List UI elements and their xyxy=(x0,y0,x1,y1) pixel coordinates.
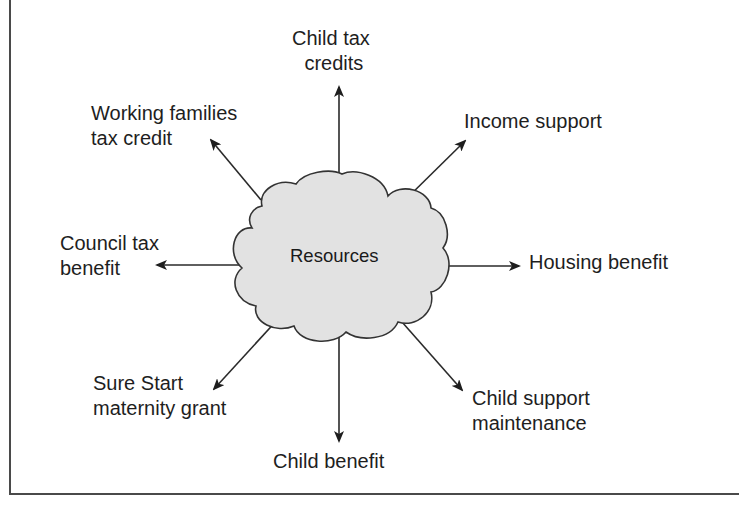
node-label-line: Child benefit xyxy=(273,449,384,474)
node-label-line: Child tax xyxy=(292,26,370,51)
node-child-support-maintenance: Child support maintenance xyxy=(472,386,590,436)
node-working-families-tax-credit: Working families tax credit xyxy=(91,101,237,151)
node-label-line: maintenance xyxy=(472,411,590,436)
node-income-support: Income support xyxy=(464,109,602,134)
node-label-line: credits xyxy=(292,51,370,76)
arrow-child-support-maintenance xyxy=(402,322,462,390)
node-label-line: benefit xyxy=(60,256,159,281)
node-label-line: Council tax xyxy=(60,231,159,256)
node-label-line: Child support xyxy=(472,386,590,411)
node-label-line: Housing benefit xyxy=(529,250,668,275)
node-label-line: tax credit xyxy=(91,126,237,151)
node-label-line: Sure Start xyxy=(93,371,226,396)
node-child-tax-credits: Child tax credits xyxy=(292,26,370,76)
node-sure-start-maternity-grant: Sure Start maternity grant xyxy=(93,371,226,421)
node-council-tax-benefit: Council tax benefit xyxy=(60,231,159,281)
node-child-benefit: Child benefit xyxy=(273,449,384,474)
node-label-line: maternity grant xyxy=(93,396,226,421)
node-label-line: Working families xyxy=(91,101,237,126)
center-label-resources: Resources xyxy=(290,245,378,267)
node-label-line: Income support xyxy=(464,109,602,134)
node-housing-benefit: Housing benefit xyxy=(529,250,668,275)
